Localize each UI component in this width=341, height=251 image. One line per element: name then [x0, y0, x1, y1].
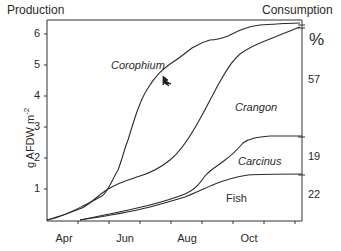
curve-corophium [47, 23, 300, 220]
pct-fish: 22 [308, 188, 320, 200]
y-axis-title-exponent: -2 [22, 108, 31, 115]
y-tick-5: 5 [28, 58, 40, 70]
x-tick-oct: Oct [229, 232, 269, 244]
y-tick-2: 2 [28, 151, 40, 163]
x-tick-aug: Aug [167, 232, 207, 244]
pct-crangon: 57 [308, 73, 320, 85]
label-fish: Fish [226, 192, 247, 204]
label-crangon: Crangon [235, 101, 277, 113]
y-tick-1: 1 [28, 182, 40, 194]
y-tick-4: 4 [28, 89, 40, 101]
percent-unit: % [309, 30, 324, 50]
production-header: Production [7, 3, 64, 17]
pct-carcinus: 19 [308, 150, 320, 162]
label-corophium: Corophium [111, 59, 165, 71]
y-tick-3: 3 [28, 120, 40, 132]
x-tick-apr: Apr [44, 232, 84, 244]
consumption-header: Consumption [262, 3, 333, 17]
chart-plot [0, 0, 341, 251]
y-tick-6: 6 [28, 27, 40, 39]
arrow-icon [163, 76, 171, 86]
x-tick-jun: Jun [105, 232, 145, 244]
curve-crangon [47, 27, 300, 220]
label-carcinus: Carcinus [238, 155, 281, 167]
